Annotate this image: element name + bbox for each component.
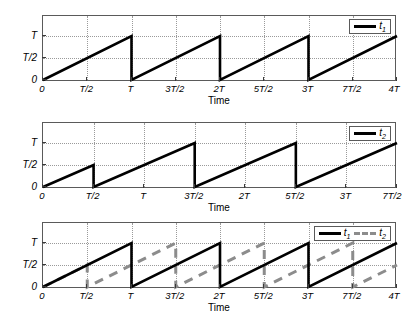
panel-2-xtick-label-3: 3T/2 [184, 190, 203, 201]
panel-2-xtick-label-5: 5T/2 [285, 190, 304, 201]
panel-3-xtick-mark-1 [86, 284, 87, 288]
panel-2: t2 T T/2 0 0 T/2 T 3T/2 2T 5T/2 3T 7T/2 … [0, 110, 417, 220]
panel-1-xtick-label-2: T [128, 83, 134, 94]
panel-1-curves [43, 16, 397, 82]
panel-1-xtick-mark-0 [42, 77, 43, 81]
panel-2-ytick-label-0: 0 [0, 181, 37, 192]
legend-line-dashed-icon [354, 232, 376, 235]
panel-3-xtick-label-3: 3T/2 [165, 290, 184, 301]
panel-1-xtick-mark-2 [131, 77, 132, 81]
panel-2-xtick-label-0: 0 [39, 190, 44, 201]
panel-2-xtick-label-7: 7T/2 [382, 190, 401, 201]
panel-3-xtick-label-7: 7T/2 [342, 290, 361, 301]
panel-3-ytick-label-Thalf: T/2 [0, 259, 37, 270]
panel-1-legend: t1 [349, 19, 391, 34]
legend-label-t1: t1 [379, 21, 386, 33]
panel-3-ytick-mark-T [42, 242, 46, 243]
panel-2-xtick-mark-0 [42, 184, 43, 188]
panel-2-xtick-mark-6 [345, 184, 346, 188]
legend-line-solid-icon [319, 232, 341, 235]
panel-3-xtick-mark-2 [131, 284, 132, 288]
panel-3-ytick-label-T: T [0, 237, 37, 248]
panel-2-xtick-label-6: 3T [340, 190, 351, 201]
panel-1-xtick-label-5: 5T/2 [254, 83, 273, 94]
panel-1-plot-area: t1 [42, 15, 396, 81]
panel-3-xaxis-title: Time [208, 302, 230, 313]
panel-3-xtick-mark-8 [396, 284, 397, 288]
panel-1-xtick-mark-1 [86, 77, 87, 81]
panel-3-xtick-mark-3 [175, 284, 176, 288]
panel-1-xaxis-title: Time [208, 95, 230, 106]
panel-2-ytick-mark-Thalf [42, 164, 46, 165]
panel-1-ytick-label-T: T [0, 30, 37, 41]
panel-3-legend: t1 t2 [314, 226, 391, 241]
panel-1-xtick-label-0: 0 [39, 83, 44, 94]
panel-1-ytick-mark-Thalf [42, 57, 46, 58]
panel-1-xtick-label-6: 3T [302, 83, 313, 94]
panel-1-xtick-label-1: T/2 [79, 83, 93, 94]
panel-1-ytick-label-0: 0 [0, 74, 37, 85]
panel-1-xtick-label-8: 4T [388, 83, 399, 94]
panel-1-xtick-mark-4 [219, 77, 220, 81]
legend-entry-t1: t1 [354, 21, 386, 33]
series-t2-line [43, 143, 397, 187]
panel-3-plot-area: t1 t2 [42, 222, 396, 288]
legend-line-solid-icon [354, 132, 376, 135]
panel-2-xtick-mark-4 [244, 184, 245, 188]
panel-3-xtick-mark-4 [219, 284, 220, 288]
panel-3-xtick-label-6: 3T [302, 290, 313, 301]
panel-2-xtick-label-2: T [140, 190, 146, 201]
legend-line-solid-icon [354, 25, 376, 28]
legend-label-t1: t1 [344, 228, 351, 240]
panel-2-xtick-mark-5 [295, 184, 296, 188]
panel-1-xtick-label-7: 7T/2 [342, 83, 361, 94]
panel-1-ytick-mark-T [42, 35, 46, 36]
panel-3-xtick-mark-0 [42, 284, 43, 288]
panel-3-ytick-label-0: 0 [0, 281, 37, 292]
legend-entry-t1: t1 [319, 228, 351, 240]
panel-2-ytick-label-Thalf: T/2 [0, 159, 37, 170]
panel-3-xtick-label-2: T [128, 290, 134, 301]
panel-2-xaxis-title: Time [208, 202, 230, 213]
sawtooth-waveform-figure: t1 T T/2 0 0 T/2 T 3T/2 2T 5T/2 3T 7T/2 … [0, 0, 417, 331]
panel-2-curves [43, 123, 397, 189]
panel-2-xtick-mark-3 [194, 184, 195, 188]
legend-entry-t2: t2 [354, 228, 386, 240]
panel-3-xtick-label-5: 5T/2 [254, 290, 273, 301]
panel-1-ytick-label-Thalf: T/2 [0, 52, 37, 63]
panel-1-xtick-mark-3 [175, 77, 176, 81]
panel-2-xtick-mark-1 [93, 184, 94, 188]
panel-3-xtick-mark-6 [308, 284, 309, 288]
panel-1-xtick-label-4: 2T [213, 83, 224, 94]
panel-3-xtick-label-4: 2T [213, 290, 224, 301]
series-t1-line [43, 243, 397, 287]
panel-1-xtick-mark-6 [308, 77, 309, 81]
panel-1-xtick-mark-5 [263, 77, 264, 81]
panel-1-xtick-mark-7 [352, 77, 353, 81]
legend-label-t2: t2 [379, 128, 386, 140]
series-t1-line [43, 36, 397, 80]
legend-label-t2: t2 [379, 228, 386, 240]
panel-2-ytick-mark-T [42, 142, 46, 143]
panel-3: t1 t2 T T/2 0 0 T/2 T 3T/2 2T 5T/2 3T [0, 220, 417, 331]
panel-3-xtick-label-0: 0 [39, 290, 44, 301]
panel-2-xtick-mark-2 [143, 184, 144, 188]
panel-3-xtick-mark-5 [263, 284, 264, 288]
panel-2-plot-area: t2 [42, 122, 396, 188]
panel-3-xtick-label-1: T/2 [79, 290, 93, 301]
panel-1-xtick-label-3: 3T/2 [165, 83, 184, 94]
panel-3-xtick-mark-7 [352, 284, 353, 288]
panel-1: t1 T T/2 0 0 T/2 T 3T/2 2T 5T/2 3T 7T/2 … [0, 0, 417, 110]
legend-entry-t2: t2 [354, 128, 386, 140]
panel-2-xtick-label-1: T/2 [86, 190, 100, 201]
panel-3-ytick-mark-Thalf [42, 264, 46, 265]
panel-2-xtick-mark-7 [396, 184, 397, 188]
panel-1-xtick-mark-8 [396, 77, 397, 81]
panel-2-xtick-label-4: 2T [239, 190, 250, 201]
panel-2-ytick-label-T: T [0, 137, 37, 148]
panel-2-legend: t2 [349, 126, 391, 141]
panel-3-xtick-label-8: 4T [388, 290, 399, 301]
